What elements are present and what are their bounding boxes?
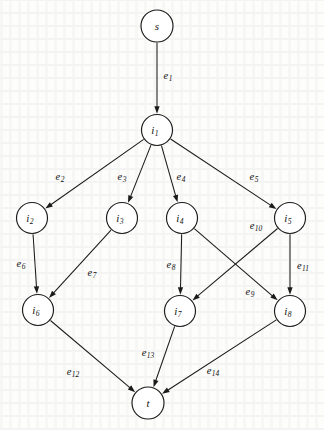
node-label: s (155, 20, 159, 32)
edge-label-e3: e3 (118, 171, 127, 184)
arrow-head (178, 287, 183, 294)
edge-label-e13: e13 (142, 347, 155, 360)
edge-label-e14: e14 (207, 365, 220, 378)
edge-label-e1: e1 (164, 70, 173, 83)
edge-label-e4: e4 (177, 171, 186, 184)
arrow-head (287, 287, 292, 294)
graph-edge (171, 139, 277, 209)
edge-label-e11: e11 (297, 260, 309, 273)
graph-edge (153, 326, 174, 387)
edge-label-e2: e2 (56, 171, 65, 184)
graph-node-s: s (141, 10, 173, 42)
graph-node-i8: i8 (275, 296, 306, 327)
graph-edge (162, 320, 276, 394)
edge-label-e9: e9 (246, 286, 255, 299)
graph-edge (33, 234, 39, 293)
arrow-head (128, 195, 133, 203)
arrow-head (162, 388, 170, 394)
arrow-head (173, 194, 178, 202)
edges-layer (33, 43, 293, 394)
graph-node-i7: i7 (165, 296, 196, 327)
graph-node-i6: i6 (23, 295, 54, 326)
edge-label-e7: e7 (88, 267, 97, 280)
nodes-layer: si1i2i3i4i5i6i7i8t (17, 10, 306, 419)
graph-node-i1: i1 (142, 115, 173, 146)
edge-label-e10: e10 (250, 220, 263, 233)
edge-label-e6: e6 (17, 258, 26, 271)
graph-node-i5: i5 (275, 203, 306, 234)
edge-label-e8: e8 (167, 259, 176, 272)
edge-label-e5: e5 (250, 171, 259, 184)
graph-node-i4: i4 (167, 203, 198, 234)
edge-label-e12: e12 (67, 366, 80, 379)
arrow-head (34, 286, 39, 294)
graph-edge (161, 146, 178, 203)
arrow-head (269, 203, 277, 209)
arrow-head (45, 202, 53, 208)
graph-edge (287, 234, 292, 294)
arrow-head (154, 106, 159, 113)
graph-node-i2: i2 (17, 203, 48, 234)
graph-edge (154, 43, 159, 114)
graph-node-t: t (132, 387, 164, 419)
graph-edge (50, 321, 135, 393)
graph-node-i3: i3 (107, 203, 138, 234)
graph-edge (49, 230, 111, 298)
graph-edge (128, 145, 151, 203)
arrow-head (153, 379, 158, 387)
graph-edge (178, 234, 183, 294)
graph-figure: si1i2i3i4i5i6i7i8t e1e2e3e4e5e6e7e8e9e10… (0, 0, 324, 430)
directed-graph-canvas: si1i2i3i4i5i6i7i8t e1e2e3e4e5e6e7e8e9e10… (0, 0, 324, 430)
